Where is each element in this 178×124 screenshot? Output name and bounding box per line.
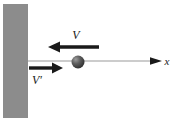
x-axis-label: x (164, 55, 170, 67)
ball (72, 56, 85, 69)
diagram-canvas: x V V′ (0, 0, 178, 124)
outgoing-velocity-arrowhead (52, 63, 63, 74)
outgoing-velocity-label: V′ (32, 73, 42, 87)
incoming-velocity-arrowhead (48, 42, 60, 53)
wall (3, 4, 28, 118)
physics-diagram-figure: x V V′ (0, 0, 178, 124)
x-axis-arrowhead (150, 57, 162, 65)
incoming-velocity-label: V (72, 28, 81, 42)
